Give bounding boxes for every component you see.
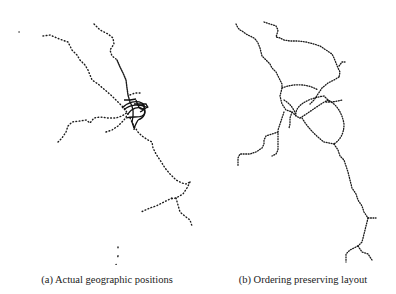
geographic-network-plot	[0, 0, 198, 265]
caption-b: (b) Ordering preserving layout	[204, 274, 396, 285]
ordering-preserving-network-plot	[198, 0, 396, 265]
panel-geographic: (a) Actual geographic positions	[0, 0, 198, 294]
figure: (a) Actual geographic positions	[0, 0, 396, 294]
caption-a: (a) Actual geographic positions	[8, 274, 206, 285]
central-cluster	[122, 99, 148, 130]
panel-ordering-preserving: (b) Ordering preserving layout	[198, 0, 396, 294]
